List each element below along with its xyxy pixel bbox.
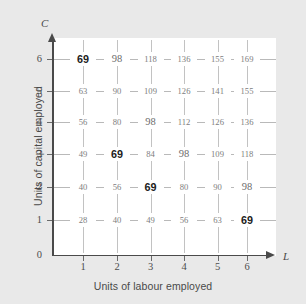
output-value: 112: [171, 117, 197, 127]
output-value: 49: [70, 149, 96, 159]
grid-vertical-segment: [117, 194, 118, 213]
grid-vertical-segment: [184, 161, 185, 180]
output-value: 56: [70, 117, 96, 127]
x-axis-tick-label: 3: [144, 261, 158, 272]
isoquant-segment: [96, 122, 104, 123]
isoquant-segment: [52, 122, 70, 123]
output-value: 49: [138, 215, 164, 225]
grid-vertical-segment: [117, 40, 118, 52]
output-value: 63: [205, 215, 231, 225]
grid-vertical-segment: [83, 98, 84, 115]
x-axis-symbol: L: [283, 250, 289, 262]
output-value: 69: [138, 181, 164, 193]
isoquant-segment: [197, 59, 205, 60]
grid-vertical-segment: [247, 227, 248, 253]
grid-vertical-segment: [117, 66, 118, 84]
isoquant-segment: [164, 91, 172, 92]
y-axis-symbol: C: [41, 17, 48, 29]
output-value: 69: [70, 53, 96, 65]
grid-vertical-segment: [83, 227, 84, 253]
grid-vertical-segment: [117, 227, 118, 253]
isoquant-segment: [130, 154, 138, 155]
output-value: 169: [234, 54, 260, 64]
isoquant-segment: [197, 220, 205, 221]
output-value: 40: [70, 182, 96, 192]
isoquant-segment: [52, 59, 70, 60]
grid-vertical-segment: [151, 40, 152, 52]
isoquant-segment: [52, 154, 70, 155]
grid-vertical-segment: [247, 129, 248, 148]
y-axis-arrow-icon: [48, 33, 56, 42]
isoquant-segment: [260, 59, 276, 60]
output-value: 141: [205, 86, 231, 96]
output-value: 136: [234, 117, 260, 127]
grid-vertical-segment: [117, 161, 118, 180]
isoquant-segment: [96, 91, 104, 92]
isoquant-segment: [164, 122, 172, 123]
isoquant-segment: [52, 91, 70, 92]
grid-vertical-segment: [218, 194, 219, 213]
output-value: 80: [104, 117, 130, 127]
grid-vertical-segment: [151, 227, 152, 253]
grid-vertical-segment: [117, 129, 118, 148]
output-value: 136: [171, 54, 197, 64]
isoquant-segment: [197, 91, 205, 92]
isoquant-segment: [96, 220, 104, 221]
isoquant-segment: [197, 154, 205, 155]
grid-vertical-segment: [184, 194, 185, 213]
output-value: 84: [138, 149, 164, 159]
isoquant-segment: [164, 154, 172, 155]
output-value: 126: [205, 117, 231, 127]
grid-vertical-segment: [151, 129, 152, 148]
grid-vertical-segment: [151, 161, 152, 180]
y-axis-line: [52, 41, 54, 256]
isoquant-segment: [130, 59, 138, 60]
isoquant-segment: [164, 220, 172, 221]
output-value: 90: [205, 182, 231, 192]
isoquant-segment: [260, 187, 276, 188]
grid-vertical-segment: [83, 161, 84, 180]
isoquant-segment: [96, 154, 104, 155]
grid-vertical-segment: [218, 40, 219, 52]
isoquant-segment: [130, 187, 138, 188]
y-axis-tick: [47, 154, 52, 155]
y-axis-tick: [47, 59, 52, 60]
grid-vertical-segment: [151, 98, 152, 115]
isoquant-segment: [197, 122, 205, 123]
grid-vertical-segment: [218, 98, 219, 115]
output-value: 28: [70, 215, 96, 225]
grid-vertical-segment: [247, 66, 248, 84]
isoquant-segment: [197, 187, 205, 188]
output-value: 109: [138, 86, 164, 96]
grid-vertical-segment: [218, 227, 219, 253]
output-value: 98: [171, 149, 197, 159]
output-value: 98: [138, 117, 164, 127]
output-value: 40: [104, 215, 130, 225]
isoquant-segment: [130, 220, 138, 221]
isoquant-segment: [130, 122, 138, 123]
output-value: 126: [171, 86, 197, 96]
grid-vertical-segment: [117, 98, 118, 115]
isoquant-segment: [96, 59, 104, 60]
grid-vertical-segment: [218, 129, 219, 148]
isoquant-segment: [164, 187, 172, 188]
grid-vertical-segment: [247, 194, 248, 213]
output-value: 90: [104, 86, 130, 96]
isoquant-segment: [260, 220, 276, 221]
grid-vertical-segment: [184, 66, 185, 84]
output-value: 118: [138, 54, 164, 64]
grid-vertical-segment: [184, 227, 185, 253]
isoquant-segment: [52, 220, 70, 221]
output-value: 98: [104, 54, 130, 64]
isoquant-chart: 6998118136155169639010912614115556809811…: [0, 0, 306, 304]
grid-vertical-segment: [151, 194, 152, 213]
grid-vertical-segment: [184, 98, 185, 115]
x-axis-tick-label: 4: [177, 261, 191, 272]
origin-label: 0: [28, 249, 42, 260]
output-value: 63: [70, 86, 96, 96]
isoquant-segment: [130, 91, 138, 92]
isoquant-segment: [164, 59, 172, 60]
x-axis-title: Units of labour employed: [0, 280, 306, 292]
y-axis-tick: [47, 91, 52, 92]
x-axis-line: [52, 255, 269, 257]
